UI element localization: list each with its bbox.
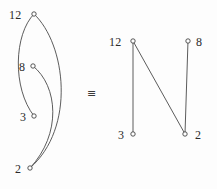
- node-label-2-right: 2: [195, 129, 201, 141]
- edge-12-2-straight: [133, 41, 185, 134]
- equivalence-symbol: ≡: [87, 88, 96, 99]
- right-diagram-edges: [133, 41, 188, 134]
- right-diagram-canvas: [0, 0, 217, 189]
- node-2-right[interactable]: [183, 132, 187, 136]
- node-label-8-left: 8: [19, 61, 25, 73]
- node-3-right[interactable]: [131, 132, 135, 136]
- node-label-12-left: 12: [9, 9, 22, 21]
- node-8-right[interactable]: [186, 39, 190, 43]
- node-label-12-right: 12: [109, 36, 122, 48]
- node-label-3-right: 3: [118, 129, 124, 141]
- node-label-8-right: 8: [196, 36, 202, 48]
- node-label-2-left: 2: [15, 163, 21, 175]
- graph-equivalence-figure: 12 8 3 2 ≡ 12 8 3 2: [0, 0, 217, 189]
- edge-8-2-straight: [185, 41, 188, 134]
- node-12-right[interactable]: [131, 39, 135, 43]
- node-label-3-left: 3: [20, 111, 26, 123]
